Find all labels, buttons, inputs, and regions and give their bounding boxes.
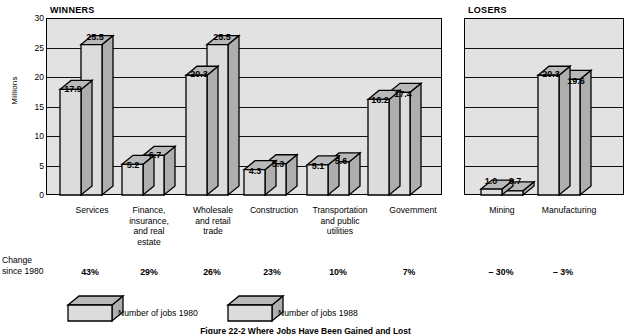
change-since-header: Change since 1980	[2, 255, 44, 276]
gridline-15-losers	[465, 107, 623, 108]
legend-label-1980: Number of jobs 1980	[118, 308, 198, 318]
value-label-finance-1980: 5.2	[118, 160, 148, 170]
category-label-manufacturing: Manufacturing	[528, 205, 610, 216]
plot-area-losers	[464, 18, 624, 195]
change-since-line2: since 1980	[2, 266, 44, 277]
y-tick-20: 20	[22, 72, 44, 82]
change-value-government: 7%	[378, 267, 440, 277]
change-value-wholesale: 26%	[183, 267, 241, 277]
legend-swatch-1980	[68, 296, 123, 321]
value-label-construction-1988: 5.3	[263, 159, 293, 169]
category-label-transportation: Transportation and public utilities	[296, 205, 384, 237]
gridline-25-losers	[465, 48, 623, 49]
value-label-wholesale-1980: 20.3	[182, 69, 216, 79]
value-label-services-1988: 25.5	[78, 32, 112, 42]
gridline-10	[47, 136, 441, 137]
gridline-10-losers	[465, 136, 623, 137]
category-label-finance: Finance, insurance, and real estate	[118, 205, 180, 247]
y-tick-5: 5	[22, 161, 44, 171]
value-label-wholesale-1988: 25.5	[205, 32, 239, 42]
change-since-line1: Change	[2, 255, 44, 266]
gridline-15	[47, 107, 441, 108]
gridline-20	[47, 77, 441, 78]
category-label-government: Government	[377, 205, 449, 216]
y-tick-25: 25	[22, 43, 44, 53]
y-tick-0: 0	[22, 190, 44, 200]
change-value-manufacturing: – 3%	[532, 267, 594, 277]
value-label-transportation-1988: 5.6	[326, 156, 356, 166]
change-value-services: 43%	[60, 267, 120, 277]
y-tick-30: 30	[22, 13, 44, 23]
category-label-services: Services	[57, 205, 127, 216]
value-label-services-1980: 17.9	[56, 84, 90, 94]
value-label-finance-1988: 6.7	[140, 150, 170, 160]
y-axis-label: Millions	[10, 61, 19, 121]
legend-swatch-1988	[228, 296, 283, 321]
change-value-finance: 29%	[122, 267, 176, 277]
value-label-government-1988: 17.4	[387, 89, 419, 99]
panel-title-losers: LOSERS	[468, 5, 507, 15]
change-value-transportation: 10%	[307, 267, 369, 277]
y-tick-15: 15	[22, 102, 44, 112]
legend-label-1988: Number of jobs 1988	[278, 308, 358, 318]
change-value-mining: – 30%	[472, 267, 530, 277]
panel-title-winners: WINNERS	[50, 5, 95, 15]
gridline-5-losers	[465, 166, 623, 167]
y-axis: Millions 30 25 20 15 10 5 0	[0, 0, 44, 334]
change-value-construction: 23%	[243, 267, 301, 277]
category-label-mining: Mining	[474, 205, 530, 216]
value-label-mining-1988: 0.7	[502, 176, 528, 186]
figure-caption: Figure 22-2 Where Jobs Have Been Gained …	[0, 326, 611, 334]
gridline-25	[47, 48, 441, 49]
y-tick-10: 10	[22, 131, 44, 141]
value-label-manufacturing-1988: 19.6	[559, 76, 593, 86]
value-label-mining-1980: 1.0	[478, 176, 504, 186]
